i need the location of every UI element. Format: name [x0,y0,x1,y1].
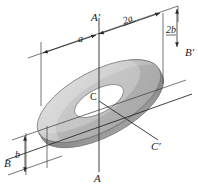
label-axis-a-bottom: A [93,172,101,184]
label-axis-b-left: B [4,157,11,169]
label-dim-a: a [78,33,83,44]
label-dim-b: b [15,149,20,160]
figure-container: A′ A B′ B C′ C a 2a b 2b [0,0,198,185]
label-axis-c-right: C′ [151,140,161,152]
label-dim-2a: 2a [121,12,134,26]
label-axis-a-top: A′ [90,11,101,23]
arrow-a [43,35,96,53]
label-center-c: C [90,91,97,102]
label-dim-2b: 2b [166,24,176,35]
annulus-diagram: A′ A B′ B C′ C a 2a b 2b [0,0,198,185]
disk-body [17,31,187,170]
label-axis-b-right: B′ [185,46,195,58]
